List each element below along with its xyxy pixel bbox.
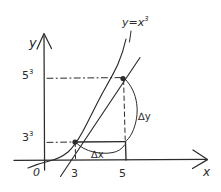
origin-label: 0 (33, 167, 40, 178)
leader-y-upper (47, 78, 121, 79)
curve-equation-exponent: 3 (144, 15, 148, 23)
drop-line-x5 (126, 142, 127, 160)
y-axis-label: y (29, 36, 37, 49)
y-tick-label-lower: 33 (22, 132, 33, 143)
curve-label-leader (130, 31, 132, 42)
delta-x-label: ∆x (91, 150, 104, 160)
cubic-secant-sketch: y=x3 y x 0 53 33 3 5 ∆x ∆y (0, 0, 221, 192)
y-tick-upper-exponent: 3 (29, 68, 33, 76)
y-tick-label-upper: 53 (22, 70, 33, 81)
delta-y-line (124, 80, 126, 140)
y-tick-lower-base: 3 (22, 131, 29, 144)
point-lower (72, 139, 77, 144)
sketch-canvas (0, 0, 221, 192)
x-tick-label-lower: 3 (71, 168, 78, 179)
delta-y-label: ∆y (138, 112, 151, 122)
delta-y-brace (125, 79, 137, 142)
y-tick-upper-base: 5 (22, 69, 29, 82)
cubic-curve (28, 39, 126, 168)
point-upper (120, 76, 125, 81)
curve-equation-label: y=x3 (122, 17, 149, 28)
curve-equation-base: y=x (122, 16, 144, 29)
x-axis-label: x (203, 166, 210, 178)
y-axis (37, 34, 52, 171)
x-tick-label-upper: 5 (119, 168, 126, 179)
y-tick-lower-exponent: 3 (29, 130, 33, 138)
